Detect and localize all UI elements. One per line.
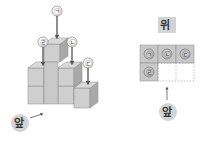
front-label-left: 앞 <box>11 114 42 132</box>
cube-diagram: ㉠ ㉣ ㉡ ㉢ 앞 위 ㉠ ㉡ ㉢ ㉣ 앞 <box>0 0 207 141</box>
front-label-right: 앞 <box>159 88 177 121</box>
svg-text:㉢: ㉢ <box>85 60 92 68</box>
svg-text:앞: 앞 <box>14 117 24 130</box>
cube <box>58 62 82 86</box>
svg-text:㉣: ㉣ <box>40 39 47 47</box>
svg-text:㉠: ㉠ <box>146 51 153 59</box>
label-ㄱ: ㉠ <box>54 8 61 16</box>
svg-text:위: 위 <box>160 19 170 32</box>
svg-text:㉡: ㉡ <box>164 51 171 59</box>
top-view: 위 ㉠ ㉡ ㉢ ㉣ <box>140 17 194 81</box>
svg-text:㉢: ㉢ <box>182 51 189 59</box>
cube <box>74 82 98 108</box>
svg-text:㉣: ㉣ <box>146 69 153 77</box>
svg-text:㉡: ㉡ <box>69 39 76 47</box>
svg-text:앞: 앞 <box>162 106 172 119</box>
